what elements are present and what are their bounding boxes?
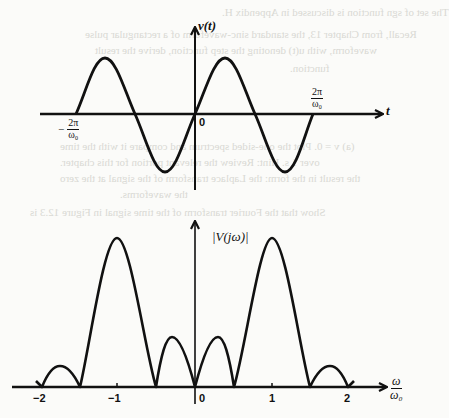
fraction-denominator: ω₀ <box>390 389 403 402</box>
bottom-x-axis-label: ω ω₀ <box>390 375 403 401</box>
top-plot <box>40 28 382 190</box>
fraction-denominator: ω₀ <box>312 99 322 110</box>
tick-label-0: 0 <box>199 392 205 404</box>
top-y-axis-label: v(t) <box>198 18 216 34</box>
minus-sign: − <box>58 123 64 135</box>
bottom-y-axis-label: |V(jω)| <box>212 229 249 245</box>
fraction: 2π ω₀ <box>67 118 79 140</box>
left-period-tick: − 2π ω₀ <box>58 118 79 140</box>
top-x-axis-label: t <box>386 103 390 119</box>
tick-label-1: 1 <box>269 392 275 404</box>
top-origin-label: 0 <box>199 116 205 128</box>
fraction-numerator: ω <box>391 375 401 389</box>
bottom-plot <box>12 222 386 404</box>
fraction-denominator: ω₀ <box>68 130 78 141</box>
fraction-numerator: 2π <box>67 118 79 130</box>
tick-label-2: 2 <box>344 392 350 404</box>
fraction-numerator: 2π <box>311 87 323 99</box>
right-period-tick: 2π ω₀ <box>311 87 323 109</box>
tick-label-neg2: −2 <box>33 392 46 404</box>
tick-label-neg1: −1 <box>108 392 121 404</box>
